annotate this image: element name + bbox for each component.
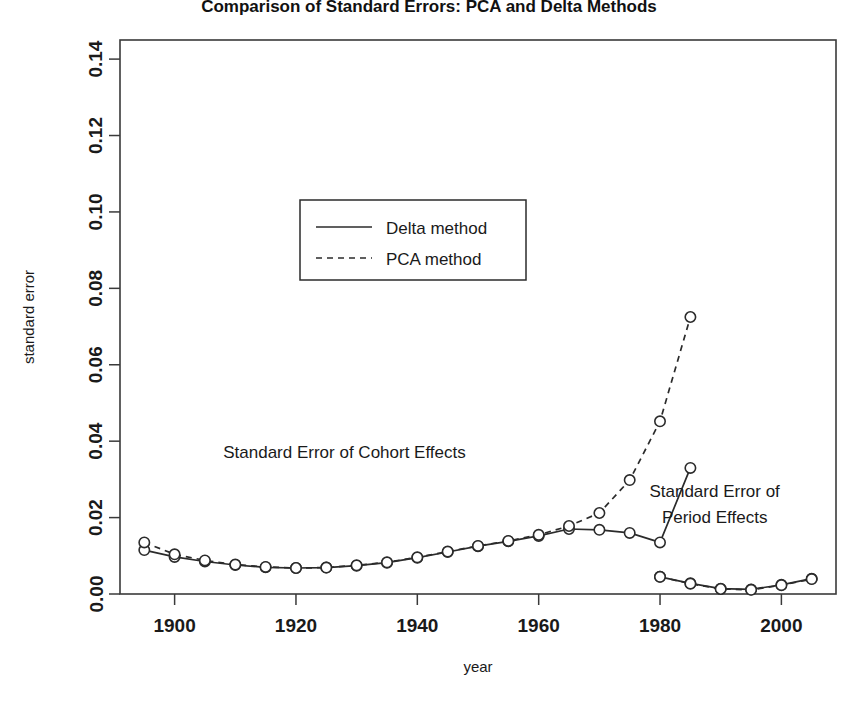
data-point-marker <box>139 537 149 547</box>
data-point-marker <box>685 463 695 473</box>
data-point-marker <box>685 579 695 589</box>
standard-error-line-chart: Comparison of Standard Errors: PCA and D… <box>0 0 858 708</box>
x-tick-label: 1960 <box>518 615 560 636</box>
y-tick-label: 0.04 <box>86 422 107 459</box>
x-tick-label: 1980 <box>639 615 681 636</box>
data-point-marker <box>746 585 756 595</box>
data-point-marker <box>230 559 240 569</box>
data-point-marker <box>807 574 817 584</box>
data-point-marker <box>625 528 635 538</box>
legend-label-pca-method: PCA method <box>386 250 481 269</box>
x-tick-label: 1940 <box>396 615 438 636</box>
plot-annotation: Standard Error of Cohort Effects <box>223 443 466 462</box>
data-point-marker <box>655 537 665 547</box>
plot-annotation: Period Effects <box>662 508 768 527</box>
chart-background <box>0 0 858 708</box>
data-point-marker <box>655 416 665 426</box>
chart-figure: Comparison of Standard Errors: PCA and D… <box>0 0 858 708</box>
x-axis-label: year <box>463 658 492 675</box>
chart-legend: Delta method PCA method <box>300 200 526 280</box>
data-point-marker <box>503 536 513 546</box>
data-point-marker <box>594 508 604 518</box>
data-point-marker <box>200 555 210 565</box>
y-axis-label: standard error <box>20 270 37 364</box>
y-tick-label: 0.06 <box>86 346 107 383</box>
y-tick-label: 0.12 <box>86 117 107 154</box>
data-point-marker <box>716 584 726 594</box>
data-point-marker <box>412 552 422 562</box>
data-point-marker <box>260 562 270 572</box>
y-tick-label: 0.14 <box>86 40 107 77</box>
y-tick-label: 0.00 <box>86 576 107 613</box>
data-point-marker <box>655 572 665 582</box>
y-tick-label: 0.02 <box>86 499 107 536</box>
x-tick-label: 1900 <box>153 615 195 636</box>
y-tick-label: 0.10 <box>86 193 107 230</box>
data-point-marker <box>443 546 453 556</box>
data-point-marker <box>473 541 483 551</box>
data-point-marker <box>685 312 695 322</box>
data-point-marker <box>594 525 604 535</box>
plot-annotation: Standard Error of <box>649 482 780 501</box>
data-point-marker <box>351 560 361 570</box>
chart-title: Comparison of Standard Errors: PCA and D… <box>201 0 657 16</box>
data-point-marker <box>625 475 635 485</box>
data-point-marker <box>169 549 179 559</box>
x-tick-label: 1920 <box>275 615 317 636</box>
x-tick-label: 2000 <box>760 615 802 636</box>
legend-label-delta-method: Delta method <box>386 219 487 238</box>
data-point-marker <box>776 580 786 590</box>
data-point-marker <box>564 521 574 531</box>
data-point-marker <box>291 563 301 573</box>
data-point-marker <box>534 530 544 540</box>
y-tick-label: 0.08 <box>86 270 107 307</box>
data-point-marker <box>321 562 331 572</box>
data-point-marker <box>382 557 392 567</box>
